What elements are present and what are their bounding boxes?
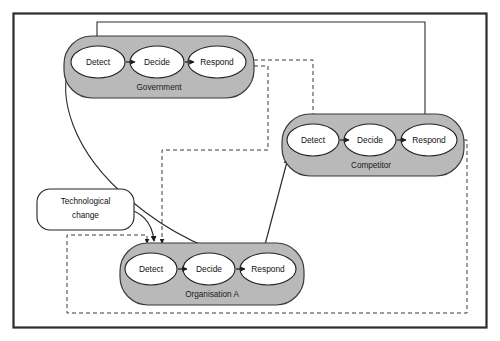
node-competitor-respond-label: Respond — [412, 135, 446, 145]
figure-container: Detect Decide Respond Government Detect … — [0, 0, 500, 341]
technological-change-body — [37, 189, 134, 230]
node-competitor-detect-label: Detect — [301, 135, 326, 145]
node-organisation-a-detect-label: Detect — [139, 264, 164, 274]
block-government[interactable]: Detect Decide Respond Government — [64, 36, 254, 98]
technological-change-label-line2: change — [72, 211, 99, 220]
node-organisation-a-respond-label: Respond — [251, 264, 285, 274]
block-government-label: Government — [136, 83, 182, 92]
block-organisation-a[interactable]: Detect Decide Respond Organisation A — [120, 243, 304, 305]
diagram-canvas: Detect Decide Respond Government Detect … — [0, 0, 500, 341]
technological-change-box[interactable]: Technological change — [37, 189, 134, 230]
node-competitor-decide-label: Decide — [357, 135, 383, 145]
node-government-detect-label: Detect — [86, 57, 111, 67]
node-organisation-a-decide-label: Decide — [196, 264, 222, 274]
block-organisation-a-label: Organisation A — [185, 290, 239, 299]
block-competitor-label: Competitor — [351, 161, 391, 170]
technological-change-label-line1: Technological — [61, 197, 111, 206]
node-government-respond-label: Respond — [200, 57, 234, 67]
node-government-decide-label: Decide — [144, 57, 170, 67]
block-competitor[interactable]: Detect Decide Respond Competitor — [282, 114, 464, 176]
